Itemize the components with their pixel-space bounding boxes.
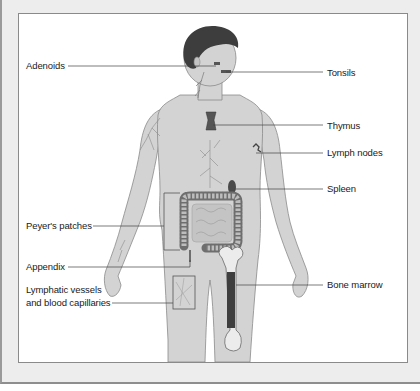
bone-marrow-organ bbox=[227, 272, 235, 328]
label-lymphatic-vessels: Lymphatic vessels bbox=[26, 284, 102, 295]
label-tonsils: Tonsils bbox=[327, 67, 355, 78]
label-blood-capillaries: and blood capillaries bbox=[26, 297, 111, 308]
label-thymus: Thymus bbox=[327, 120, 360, 131]
label-spleen: Spleen bbox=[327, 183, 356, 194]
label-peyers-patches: Peyer's patches bbox=[26, 220, 92, 231]
label-appendix: Appendix bbox=[26, 261, 65, 272]
body-illustration bbox=[0, 0, 420, 391]
label-lymph-nodes: Lymph nodes bbox=[327, 147, 383, 158]
label-adenoids: Adenoids bbox=[26, 60, 65, 71]
tonsils-organ bbox=[221, 70, 231, 73]
label-bone-marrow: Bone marrow bbox=[327, 279, 382, 290]
adenoids-organ bbox=[214, 62, 220, 65]
